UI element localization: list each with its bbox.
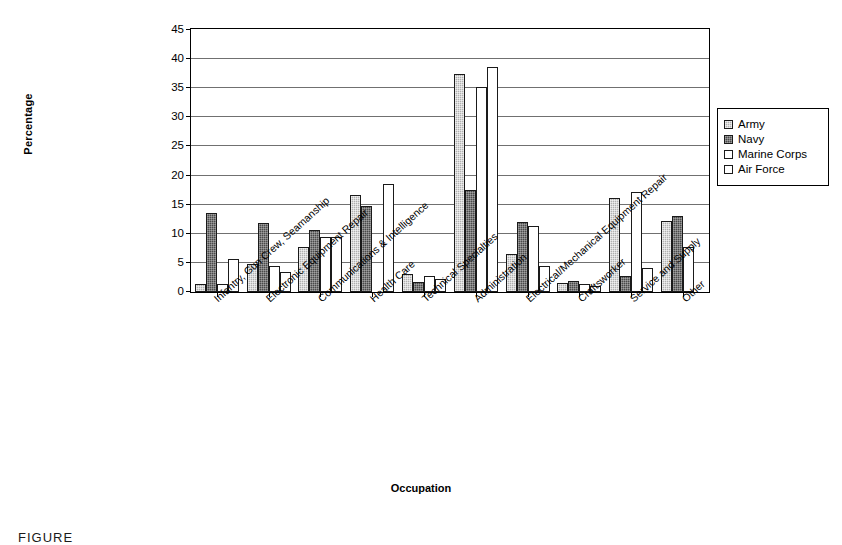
legend-item[interactable]: Marine Corps: [724, 148, 821, 160]
legend-label: Navy: [738, 133, 764, 145]
legend-swatch-icon: [724, 150, 733, 159]
bar-navy: [620, 276, 631, 292]
bar-group: [398, 29, 450, 292]
legend-item[interactable]: Navy: [724, 133, 821, 145]
bar-group: [191, 29, 243, 292]
bar-army: [557, 283, 568, 292]
y-axis-tick-label: 20: [171, 169, 184, 181]
y-axis-tick-label: 45: [171, 23, 184, 35]
legend-item[interactable]: Air Force: [724, 163, 821, 175]
figure-caption: FIGURE: [18, 530, 73, 545]
bar-air-force: [487, 67, 498, 292]
y-axis-tick-label: 0: [178, 285, 184, 297]
legend-label: Marine Corps: [738, 148, 807, 160]
bar-navy: [568, 281, 579, 292]
y-axis-tick-label: 25: [171, 139, 184, 151]
legend-label: Air Force: [738, 163, 785, 175]
legend-swatch-icon: [724, 135, 733, 144]
legend-item[interactable]: Army: [724, 118, 821, 130]
bar-army: [195, 284, 206, 292]
bar-group: [605, 29, 657, 292]
bar-marine-corps: [476, 87, 487, 292]
legend-swatch-icon: [724, 120, 733, 129]
bar-group: [502, 29, 554, 292]
legend: ArmyNavyMarine CorpsAir Force: [717, 108, 829, 186]
y-axis-tick-label: 40: [171, 52, 184, 64]
y-axis-tick-label: 35: [171, 81, 184, 93]
legend-label: Army: [738, 118, 765, 130]
legend-swatch-icon: [724, 165, 733, 174]
bar-navy: [465, 190, 476, 292]
bar-navy: [206, 213, 217, 292]
y-axis-tick-label: 10: [171, 227, 184, 239]
figure-caption-text: FIGURE: [18, 530, 73, 545]
y-axis-title: Percentage: [22, 64, 34, 184]
y-axis-tick-label: 5: [178, 256, 184, 268]
y-axis-tick-label: 15: [171, 198, 184, 210]
x-axis-title: Occupation: [0, 482, 842, 494]
y-axis-tick-label: 30: [171, 110, 184, 122]
bar-navy: [413, 282, 424, 292]
